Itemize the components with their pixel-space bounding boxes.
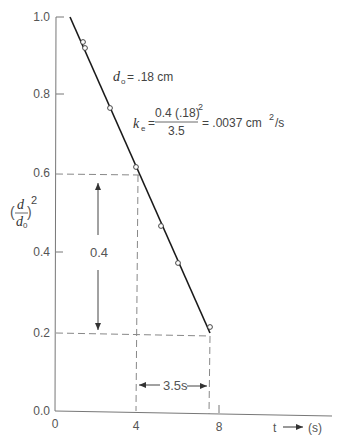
- svg-text:e: e: [141, 124, 146, 133]
- y-tick-label: 0.0: [33, 404, 50, 418]
- d0-annotation: d o = .18 cm: [113, 69, 173, 86]
- x-tick-label: 0: [52, 417, 59, 431]
- y-tick-label: 0.8: [33, 87, 50, 101]
- svg-text:): ): [27, 204, 32, 220]
- delta-t-label: 3.5s: [163, 378, 188, 393]
- data-point: [81, 40, 86, 45]
- x-tick-label: 4: [133, 419, 140, 433]
- svg-text:(: (: [10, 204, 15, 220]
- y-tick-label: 0.4: [33, 245, 50, 259]
- svg-text:2: 2: [31, 194, 37, 206]
- svg-text:/s: /s: [275, 116, 284, 130]
- y-tick-label: 0.6: [33, 166, 50, 180]
- data-point: [83, 46, 88, 51]
- svg-text:3.5: 3.5: [168, 124, 185, 138]
- svg-text:= .0037 cm: = .0037 cm: [202, 116, 262, 130]
- svg-text:2: 2: [269, 112, 274, 122]
- chart: 1.0 0.8 0.6 0.4 0.2 0.0 0 4 8 t (s) ( d …: [0, 0, 346, 439]
- svg-text:d: d: [113, 69, 121, 84]
- delta-y-label: 0.4: [90, 245, 108, 260]
- x-tick-label: 8: [216, 420, 223, 434]
- y-tick-label: 0.2: [33, 326, 50, 340]
- svg-text:o: o: [121, 77, 126, 86]
- ref-line-t-7.5: [209, 336, 210, 414]
- svg-text:d: d: [17, 197, 25, 212]
- data-point: [176, 261, 181, 266]
- svg-text:2: 2: [198, 102, 203, 112]
- svg-text:0: 0: [23, 221, 28, 230]
- ref-line-y-0.2: [56, 333, 210, 336]
- data-point: [208, 325, 213, 330]
- svg-text:=: =: [148, 116, 155, 130]
- y-axis: [55, 17, 56, 411]
- data-point: [134, 165, 139, 170]
- y-axis-label: ( d d 0 ) 2: [10, 194, 37, 230]
- svg-text:0.4 (.18): 0.4 (.18): [155, 106, 200, 120]
- ref-line-t-4: [136, 175, 138, 411]
- x-axis: [55, 411, 332, 416]
- ke-annotation: k e = 0.4 (.18) 2 3.5 = .0037 cm 2 /s: [133, 102, 284, 138]
- y-tick-label: 1.0: [33, 10, 50, 24]
- fit-line: [70, 17, 210, 333]
- x-axis-unit: (s): [308, 421, 322, 435]
- svg-text:k: k: [133, 116, 140, 131]
- x-axis-label: t: [273, 421, 277, 435]
- data-point: [108, 106, 113, 111]
- ref-line-y-0.6: [56, 174, 139, 175]
- svg-text:= .18 cm: = .18 cm: [127, 70, 173, 84]
- data-point: [159, 224, 164, 229]
